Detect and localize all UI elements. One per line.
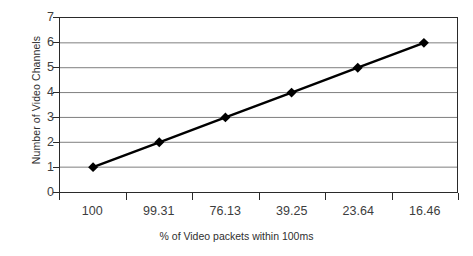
x-axis-title: % of Video packets within 100ms	[0, 230, 473, 242]
x-tick-mark-3	[259, 193, 260, 200]
data-line-series-1	[93, 43, 424, 167]
x-tick-mark-5	[392, 193, 393, 200]
y-tick-label-2: 2	[36, 136, 54, 149]
data-point-4	[287, 88, 297, 98]
y-tick-label-0: 0	[36, 186, 54, 199]
data-point-5	[353, 63, 363, 73]
plot-area	[59, 17, 458, 193]
x-tick-label-16-46: 16.46	[392, 205, 458, 218]
plot-svg	[60, 18, 457, 192]
x-tick-mark-6	[458, 193, 459, 200]
x-tick-label-76-13: 76.13	[192, 205, 258, 218]
data-point-1	[88, 162, 98, 172]
y-tick-label-6: 6	[36, 36, 54, 49]
x-tick-mark-1	[126, 193, 127, 200]
data-point-6	[419, 38, 429, 48]
x-tick-mark-4	[325, 193, 326, 200]
line-chart: Number of Video Channels 7 6 5 4 3 2 1 0	[0, 0, 473, 256]
x-tick-label-99-31: 99.31	[126, 205, 192, 218]
y-tick-label-1: 1	[36, 161, 54, 174]
y-tick-label-7: 7	[36, 11, 54, 24]
data-point-3	[220, 112, 230, 122]
data-point-2	[154, 137, 164, 147]
x-tick-mark-2	[192, 193, 193, 200]
x-tick-label-39-25: 39.25	[259, 205, 325, 218]
y-tick-label-3: 3	[36, 111, 54, 124]
x-tick-label-100: 100	[59, 205, 125, 218]
x-tick-mark-0	[59, 193, 60, 200]
y-tick-label-4: 4	[36, 86, 54, 99]
y-tick-label-5: 5	[36, 61, 54, 74]
x-tick-label-23-64: 23.64	[325, 205, 391, 218]
